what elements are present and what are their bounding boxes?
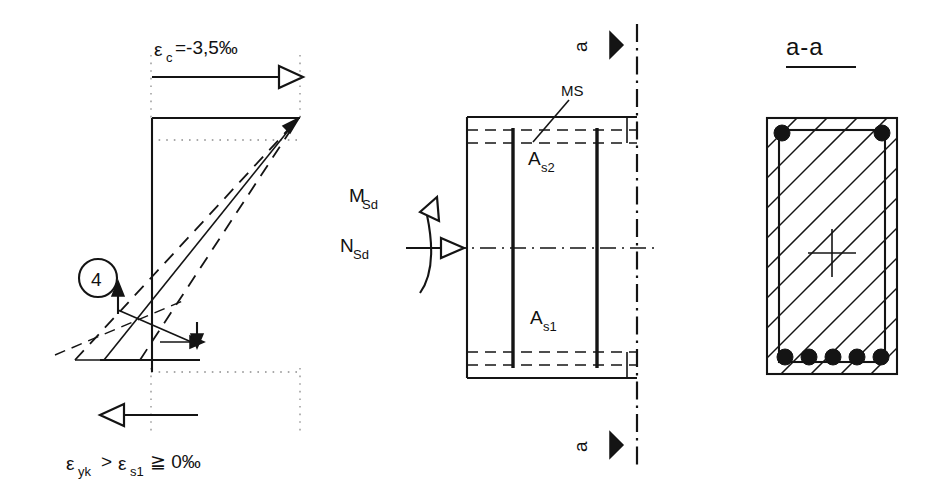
rebar-top-2	[874, 125, 890, 141]
strain-top-arrow	[152, 66, 303, 88]
normal-force-indicator: N Sd	[340, 235, 464, 262]
strain-bottom-label-eps1-sub: yk	[78, 464, 92, 479]
strain-top-label-epsilon: ε	[154, 39, 163, 60]
strain-bottom-arrow	[100, 404, 198, 426]
rebar-bottom-3	[825, 349, 841, 365]
bottom-steel-label: A s1	[530, 307, 557, 334]
strain-rotation-arrows	[112, 281, 204, 348]
section-marker-top[interactable]: a	[570, 32, 623, 58]
strain-bottom-label: ε yk > ε s1 ≧ 0‰	[66, 451, 201, 479]
rebar-top-1	[774, 125, 790, 141]
top-steel-label-A: A	[528, 148, 541, 169]
strain-bottom-label-eps2-sub: s1	[130, 464, 144, 479]
strain-zone-4-label: 4	[91, 269, 102, 290]
section-marker-top-letter: a	[570, 41, 591, 52]
strain-top-label: ε c =-3,5‰	[154, 37, 238, 65]
rebar-bottom-5	[873, 349, 889, 365]
rebar-bottom-4	[849, 349, 865, 365]
moment-indicator: M Sd	[349, 185, 439, 293]
cross-section-title: a-a	[786, 33, 824, 60]
strain-line-solid	[104, 118, 299, 360]
top-reinforcement-lines	[467, 130, 637, 143]
rebar-bottom-2	[801, 349, 817, 365]
bottom-steel-label-sub: s1	[543, 319, 557, 334]
bottom-reinforcement-lines	[467, 352, 637, 365]
normal-force-label-N: N	[340, 235, 354, 256]
concrete-hatching	[735, 100, 920, 410]
strain-bottom-label-eps2: ε	[118, 453, 127, 474]
section-marker-bottom[interactable]: a	[570, 432, 623, 458]
top-steel-label-sub: s2	[541, 160, 555, 175]
stirrup-leader	[533, 100, 569, 142]
drawing-sheet: ε c =-3,5‰	[0, 0, 944, 501]
stirrup-label: MS	[561, 82, 584, 99]
elevation-panel: MS A s2 A s1 M Sd N Sd a	[340, 24, 660, 470]
strain-zone-4-marker[interactable]: 4	[79, 259, 117, 297]
strain-guide-lines	[151, 55, 300, 432]
strain-top-label-value: =-3,5‰	[175, 37, 238, 58]
strain-bottom-label-gt: >	[101, 451, 112, 472]
centroid-marker	[808, 229, 856, 277]
cross-section-panel: a-a	[735, 33, 920, 410]
top-steel-label: A s2	[528, 148, 555, 175]
strain-bottom-label-value: ≧ 0‰	[150, 451, 201, 472]
bottom-steel-label-A: A	[530, 307, 543, 328]
strain-diagram-panel: ε c =-3,5‰	[55, 37, 303, 479]
strain-top-label-subscript: c	[166, 50, 173, 65]
rebar-bottom-1	[777, 349, 793, 365]
strain-line-fan	[55, 119, 298, 360]
strain-bottom-label-eps1: ε	[66, 453, 75, 474]
normal-force-label-sub: Sd	[353, 247, 369, 262]
moment-label-sub: Sd	[362, 197, 378, 212]
section-marker-bottom-letter: a	[570, 441, 591, 452]
